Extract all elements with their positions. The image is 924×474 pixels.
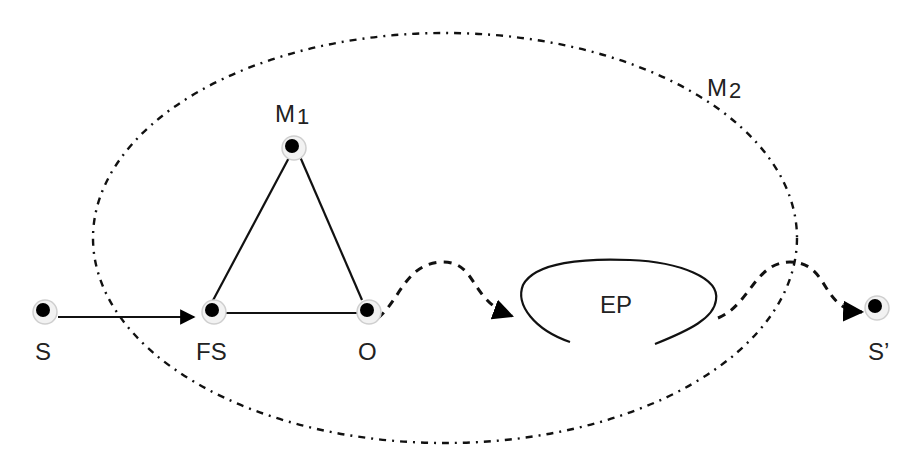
label-s: S — [35, 338, 51, 365]
svg-text:1: 1 — [297, 104, 309, 129]
edge-ep-sprime-arrow — [718, 262, 862, 318]
node-s — [33, 300, 57, 324]
diagram-canvas: S FS O S’ EP M 1 M 2 — [0, 0, 924, 474]
m2-region-boundary — [93, 33, 797, 443]
edge-o-ep-arrow — [378, 262, 512, 318]
label-m2: M 2 — [707, 74, 741, 103]
label-s-prime: S’ — [868, 338, 889, 365]
node-fs — [202, 300, 226, 324]
label-o: O — [358, 338, 377, 365]
edge-m1-o — [298, 152, 362, 300]
node-o — [357, 300, 381, 324]
label-fs: FS — [196, 338, 227, 365]
svg-text:M: M — [707, 74, 727, 101]
label-m1: M 1 — [275, 100, 309, 129]
node-m1 — [282, 136, 306, 160]
svg-text:M: M — [275, 100, 295, 127]
label-ep: EP — [600, 291, 632, 318]
edge-fs-m1 — [210, 152, 292, 306]
node-s-prime — [865, 296, 889, 320]
svg-text:2: 2 — [729, 78, 741, 103]
